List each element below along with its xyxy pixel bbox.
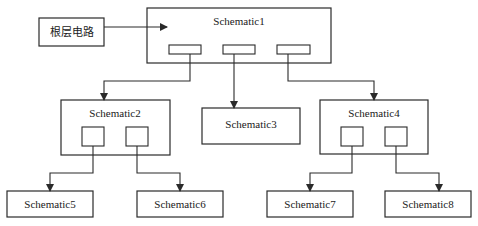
schematic6-label: Schematic6 [154,198,206,210]
schematic1-box: Schematic1 [147,8,331,63]
schematic4-label: Schematic4 [348,107,400,119]
schematic4-box: Schematic4 [320,100,428,154]
schematic7-box: Schematic7 [267,191,353,217]
hierarchy-diagram: 根层电路 Schematic1 Schematic2 Schematic3 Sc… [0,0,478,226]
schematic8-label: Schematic8 [402,198,454,210]
schematic1-port-3 [277,45,310,54]
schematic7-label: Schematic7 [284,198,336,210]
schematic2-box: Schematic2 [61,100,170,155]
root-circuit-box: 根层电路 [39,18,104,46]
schematic3-label: Schematic3 [225,118,277,130]
schematic1-port-1 [169,45,201,54]
schematic2-label: Schematic2 [89,107,140,119]
schematic4-port-1 [341,127,363,146]
schematic2-port-1 [82,127,104,146]
schematic8-box: Schematic8 [385,191,471,217]
root-circuit-label: 根层电路 [50,25,94,39]
schematic2-port-2 [126,127,148,146]
schematic5-label: Schematic5 [24,198,76,210]
schematic1-port-2 [223,45,255,54]
schematic6-box: Schematic6 [137,191,223,217]
schematic3-box: Schematic3 [202,108,300,144]
schematic4-port-2 [385,127,407,146]
schematic1-label: Schematic1 [213,15,264,27]
schematic5-box: Schematic5 [7,191,93,217]
